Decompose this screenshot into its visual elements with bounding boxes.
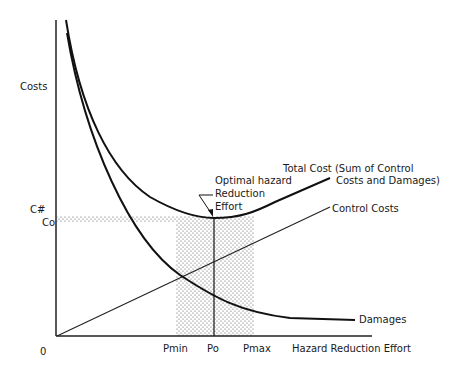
c-level-band	[57, 216, 176, 222]
cost-curve-diagram: Costs 0 C# Co Pmin Po Pmax Hazard Reduct…	[0, 0, 455, 379]
c-o-label: Co	[42, 217, 55, 228]
optimal-label-2: Reduction	[215, 188, 265, 199]
y-axis-label: Costs	[20, 81, 47, 92]
po-label: Po	[207, 343, 219, 354]
x-axis-label: Hazard Reduction Effort	[292, 343, 411, 354]
optimal-label-3: Effort	[215, 201, 242, 212]
damages-label: Damages	[359, 314, 406, 325]
pmin-pmax-shaded-region	[176, 216, 254, 336]
c-hash-label: C#	[30, 204, 45, 215]
optimal-label-1: Optimal hazard	[215, 175, 292, 186]
control-costs-label: Control Costs	[332, 203, 399, 214]
total-cost-label-1: Total Cost (Sum of Control	[282, 163, 413, 174]
pmin-label: Pmin	[163, 343, 188, 354]
arrow-head-icon	[208, 209, 213, 217]
origin-label: 0	[40, 346, 46, 357]
total-cost-curve	[66, 20, 330, 218]
total-cost-label-2: Costs and Damages)	[336, 175, 440, 186]
pmax-label: Pmax	[243, 343, 271, 354]
